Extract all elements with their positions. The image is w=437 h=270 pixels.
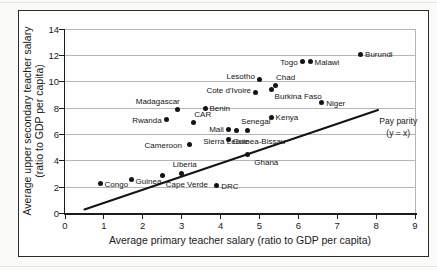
x-tick-label-3: 3 <box>179 220 184 231</box>
y-tick-0 <box>59 213 64 214</box>
pay-parity-label-line1: Pay parity <box>379 115 417 127</box>
x-axis-title: Average primary teacher salary (ratio to… <box>65 234 415 246</box>
data-point-label-madagascar: Madagascar <box>136 97 180 106</box>
data-point-label-cote-d-ivoire: Cote d'Ivoire <box>206 86 251 95</box>
data-point-label-rwanda: Rwanda <box>132 115 161 124</box>
x-tick-7 <box>337 215 338 219</box>
x-tick-label-5: 5 <box>257 220 262 231</box>
x-tick-label-1: 1 <box>101 220 106 231</box>
x-tick-label-8: 8 <box>373 220 378 231</box>
data-point-dot-guinea <box>129 177 134 182</box>
data-point-label-chad: Chad <box>276 73 295 82</box>
data-point-label-benin: Benin <box>210 104 230 113</box>
x-axis-line <box>64 213 417 215</box>
data-point-dot-sierra-leone <box>234 128 239 133</box>
pay-parity-label: Pay parity (y = x) <box>379 115 417 139</box>
data-point-dot-congo <box>98 181 103 186</box>
scan-artifact-bottom <box>0 266 437 267</box>
x-tick-4 <box>220 215 221 219</box>
data-point-dot-lesotho <box>257 77 262 82</box>
x-tick-6 <box>298 215 299 219</box>
x-tick-9 <box>415 215 416 219</box>
pay-parity-label-line2: (y = x) <box>379 127 417 139</box>
data-point-dot-burundi <box>358 52 363 57</box>
gridline-y-10 <box>65 81 415 82</box>
gridline-y-6 <box>65 134 415 135</box>
data-point-dot-ghana <box>245 152 250 157</box>
data-point-label-malawi: Malawi <box>315 57 340 66</box>
data-point-label-senegal: Senegal <box>241 117 270 126</box>
x-tick-0 <box>65 215 66 219</box>
y-tick-4 <box>59 160 64 161</box>
x-tick-8 <box>376 215 377 219</box>
y-axis-title-line1: Average upper secondary teacher salary <box>21 27 33 216</box>
y-axis-title-line2: (ratio to GDP per capita) <box>33 27 45 216</box>
data-point-label-burkina-faso: Burkina Faso <box>275 92 322 101</box>
y-tick-6 <box>59 134 64 135</box>
y-tick-14 <box>59 29 64 30</box>
y-tick-10 <box>59 81 64 82</box>
data-point-dot-mali <box>226 127 231 132</box>
data-point-label-mali: Mali <box>209 125 224 134</box>
data-point-label-ghana: Ghana <box>254 158 278 167</box>
x-tick-3 <box>181 215 182 219</box>
x-tick-label-4: 4 <box>218 220 223 231</box>
x-tick-label-2: 2 <box>140 220 145 231</box>
scatter-chart-figure: 012345678902468101214BurundiTogoMalawiLe… <box>0 0 437 270</box>
y-axis-title: Average upper secondary teacher salary (… <box>21 27 45 216</box>
x-tick-label-7: 7 <box>335 220 340 231</box>
data-point-label-lesotho: Lesotho <box>226 72 254 81</box>
x-tick-label-6: 6 <box>296 220 301 231</box>
x-tick-label-0: 0 <box>62 220 67 231</box>
data-point-label-car: CAR <box>194 110 211 119</box>
scan-artifact-top <box>0 2 437 3</box>
data-point-label-togo: Togo <box>280 57 297 66</box>
data-point-dot-burkina-faso <box>269 87 274 92</box>
data-point-dot-guinea-bissau <box>226 137 231 142</box>
y-tick-12 <box>59 55 64 56</box>
x-tick-5 <box>259 215 260 219</box>
data-point-label-drc: DRC <box>221 181 238 190</box>
data-point-label-kenya: Kenya <box>276 113 299 122</box>
x-tick-1 <box>103 215 104 219</box>
data-point-label-guinea: Guinea <box>136 177 162 186</box>
gridline-y-4 <box>65 160 415 161</box>
data-point-label-congo: Congo <box>105 180 129 189</box>
y-tick-8 <box>59 108 64 109</box>
data-point-label-cape-verde: Cape Verde <box>166 180 208 189</box>
data-point-label-guinea-bissau: Guinea-Bissau <box>233 136 285 145</box>
gridline-y-14 <box>65 29 415 30</box>
data-point-label-cameroon: Cameroon <box>145 140 182 149</box>
data-point-label-burundi: Burundi <box>365 50 393 59</box>
gridline-y-8 <box>65 108 415 109</box>
data-point-dot-car <box>191 120 196 125</box>
data-point-dot-cote-d-ivoire <box>253 90 258 95</box>
x-tick-2 <box>142 215 143 219</box>
y-tick-2 <box>59 187 64 188</box>
data-point-label-niger: Niger <box>326 98 345 107</box>
data-point-label-liberia: Liberia <box>173 160 197 169</box>
x-tick-label-9: 9 <box>412 220 417 231</box>
y-axis-line <box>64 29 66 216</box>
